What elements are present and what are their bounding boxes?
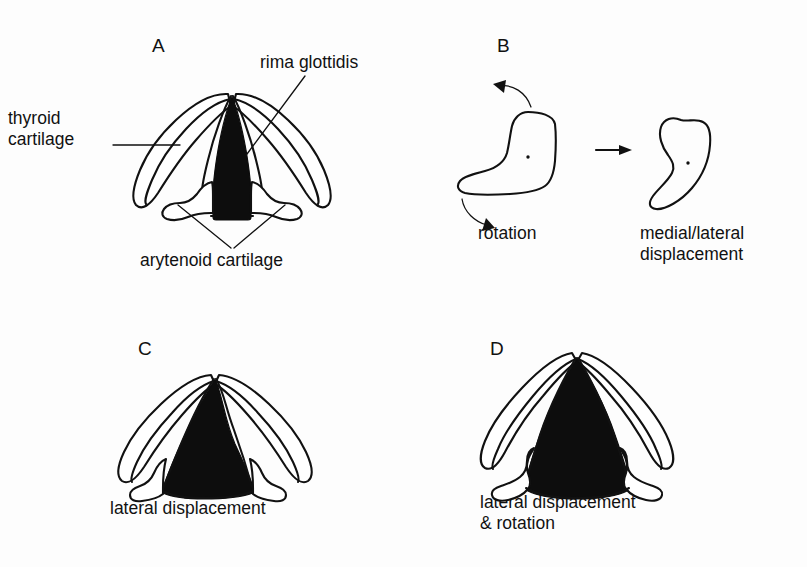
arytenoid-upright-centroid-dot (526, 155, 529, 158)
arytenoid-cartilage-right-icon (250, 459, 286, 501)
panel-c: C lateral displacement (0, 300, 400, 567)
panel-a: A rima glottidis thyroid cartilage aryte… (0, 0, 400, 300)
arytenoid-cartilage-left-icon (162, 182, 213, 220)
panel-b-illustration (400, 0, 807, 300)
rotation-arrow-bottom-curve-icon (462, 199, 487, 225)
panel-c-illustration (0, 300, 400, 567)
arytenoid-rotated-centroid-dot (686, 161, 689, 164)
panel-b: B rotation medial/lateral displacement (400, 0, 807, 300)
arytenoid-cartilage-right-icon (251, 182, 302, 220)
transition-arrow-head-icon (619, 145, 632, 155)
rotation-arrow-top-curve-icon (500, 86, 531, 107)
rotation-arrow-top-head-icon (493, 80, 506, 93)
panel-a-illustration (0, 0, 400, 300)
arytenoid-upright-icon (458, 112, 556, 195)
larynx-figure: A rima glottidis thyroid cartilage aryte… (0, 0, 807, 567)
panel-d-illustration (400, 300, 807, 567)
arytenoid-rotated-icon (650, 118, 710, 209)
panel-d: D lateral displacement & rotation (400, 300, 807, 567)
